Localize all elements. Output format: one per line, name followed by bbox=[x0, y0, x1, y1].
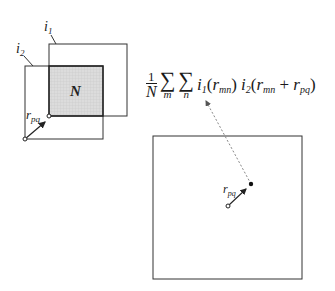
image1-leader-line bbox=[51, 35, 56, 44]
shift-vector-right-label: rpq bbox=[223, 182, 236, 198]
sum-n: ∑ n bbox=[178, 70, 194, 100]
sum-index-n: n bbox=[183, 90, 189, 100]
shift-vector-left-label: rpq bbox=[26, 107, 41, 124]
fraction-denominator: N bbox=[146, 84, 157, 100]
shift-vector-left bbox=[25, 122, 45, 139]
image2-leader-line bbox=[24, 56, 33, 66]
correlation-diagram: i1 i2 N rpq rpq bbox=[0, 0, 335, 291]
fraction: 1 N bbox=[146, 70, 157, 100]
sum-index-m: m bbox=[164, 90, 172, 100]
term-image2: i2(rmn + rpq) bbox=[241, 75, 316, 95]
origin-point-left bbox=[23, 137, 27, 141]
correlation-formula: 1 N ∑ m ∑ n i1(rmn) i2(rmn + rpq) bbox=[146, 70, 316, 100]
sigma-symbol: ∑ bbox=[160, 70, 176, 90]
sum-m: ∑ m bbox=[160, 70, 176, 100]
term-image1: i1(rmn) bbox=[197, 75, 237, 95]
dashed-pointer-line bbox=[206, 101, 251, 184]
fraction-numerator: 1 bbox=[146, 70, 157, 84]
origin-point-right bbox=[226, 204, 230, 208]
correlation-peak-point bbox=[249, 182, 253, 186]
image1-label: i1 bbox=[44, 19, 52, 36]
overlap-corner-point bbox=[47, 114, 51, 118]
sigma-symbol: ∑ bbox=[178, 70, 194, 90]
image2-label: i2 bbox=[16, 41, 25, 58]
overlap-label: N bbox=[69, 83, 82, 99]
